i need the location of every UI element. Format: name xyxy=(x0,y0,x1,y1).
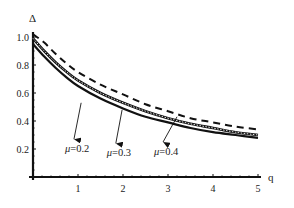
curve-mu-0-2 xyxy=(33,44,258,138)
curve-mu-0-4 xyxy=(33,34,258,129)
x-tick-label: 1 xyxy=(76,183,81,194)
y-tick-label: 0.2 xyxy=(17,144,30,155)
x-tick-label: 4 xyxy=(211,183,216,194)
y-axis-label: Δ xyxy=(29,12,36,24)
annotation-arrow xyxy=(74,103,81,139)
x-tick-label: 3 xyxy=(166,183,171,194)
y-tick-label: 1.0 xyxy=(17,32,30,43)
annotation-label: μ=0.4 xyxy=(153,146,179,157)
curve-mu-0-3 xyxy=(33,38,258,135)
annotation-label: μ=0.3 xyxy=(106,147,131,158)
y-tick-label: 0.8 xyxy=(17,60,30,71)
curves xyxy=(33,34,258,138)
y-tick-label: 0.4 xyxy=(17,116,30,127)
annotations: μ=0.2μ=0.3μ=0.4 xyxy=(64,103,179,159)
chart: 123450.20.40.60.81.0 μ=0.2μ=0.3μ=0.4 Δ q xyxy=(0,0,294,208)
x-tick-label: 5 xyxy=(256,183,261,194)
annotation-arrow xyxy=(116,110,122,144)
x-tick-label: 2 xyxy=(121,183,126,194)
y-tick-label: 0.6 xyxy=(17,88,30,99)
axes: 123450.20.40.60.81.0 xyxy=(17,32,262,195)
annotation-arrow xyxy=(163,117,177,142)
x-axis-label: q xyxy=(268,171,274,183)
annotation-label: μ=0.2 xyxy=(64,143,89,154)
